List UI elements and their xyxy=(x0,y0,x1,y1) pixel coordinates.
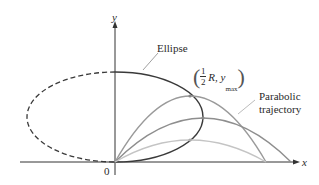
ellipse-solid-half xyxy=(115,72,203,162)
point-rest: R, y xyxy=(208,71,225,83)
point-subscript: max xyxy=(225,85,237,93)
origin-label: 0 xyxy=(104,165,110,177)
apex-point xyxy=(201,116,204,119)
apex-point xyxy=(188,94,191,97)
x-axis-arrow-icon xyxy=(293,160,300,165)
trajectory-leader-line xyxy=(238,100,255,114)
apex-coordinate-label: (12R, ymax) xyxy=(193,64,245,100)
trajectory-high xyxy=(115,96,266,162)
trajectory-low xyxy=(115,140,266,162)
parabolic-label-line2: trajectory xyxy=(259,103,301,115)
ellipse-dashed-half xyxy=(27,72,115,162)
fraction-numerator: 1 xyxy=(201,66,206,76)
y-axis-label: y xyxy=(112,11,117,23)
x-axis-label: x xyxy=(302,156,307,168)
ellipse-label: Ellipse xyxy=(157,42,188,54)
ellipse-leader-line xyxy=(143,53,158,70)
fraction-denominator: 2 xyxy=(201,77,206,87)
apex-point xyxy=(188,138,191,141)
parabolic-label-line1: Parabolic xyxy=(259,90,301,102)
